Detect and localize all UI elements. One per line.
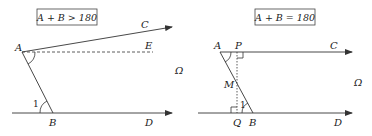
angle-arc-A xyxy=(28,52,35,64)
right-angle-Q xyxy=(231,107,237,113)
angle-label-1: 1 xyxy=(240,100,246,110)
label-Q: Q xyxy=(233,117,241,128)
angle-label-1: 1 xyxy=(33,99,39,109)
right-angle-P xyxy=(237,52,243,58)
condition-right: A + B = 180 xyxy=(254,12,315,23)
label-C: C xyxy=(141,19,149,30)
label-B: B xyxy=(48,117,56,128)
label-P: P xyxy=(234,40,242,51)
label-A: A xyxy=(213,40,221,51)
label-C: C xyxy=(330,40,338,51)
label-omega: Ω xyxy=(353,77,362,88)
condition-left: A + B > 180 xyxy=(36,12,97,23)
right-diagram: A + B = 180 A P C M 1 Q B D Ω xyxy=(198,9,362,128)
angle-arc-B xyxy=(40,101,47,113)
label-E: E xyxy=(144,40,153,51)
angle-arc-A xyxy=(225,52,231,62)
label-A: A xyxy=(14,42,22,53)
label-D: D xyxy=(333,117,342,128)
label-omega: Ω xyxy=(174,65,183,76)
left-diagram: A + B > 180 A B C D E Ω 1 xyxy=(12,9,183,128)
geometry-figure: A + B > 180 A B C D E Ω 1 A + B = 180 xyxy=(0,0,372,136)
label-M: M xyxy=(223,79,235,90)
label-D: D xyxy=(144,117,153,128)
label-B: B xyxy=(248,117,256,128)
